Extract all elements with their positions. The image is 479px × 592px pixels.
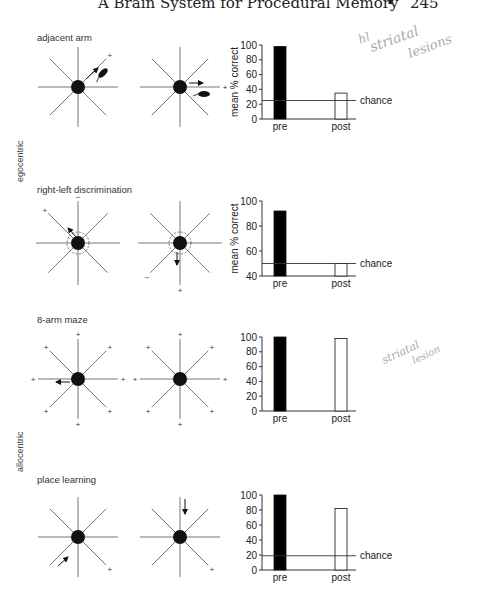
y-tick-label: 40 [246, 535, 258, 546]
reward-plus-icon: + [76, 420, 81, 429]
reward-plus-icon: + [133, 375, 138, 384]
radial-maze: + [38, 497, 118, 577]
figure-canvas: +++–+–++++++++++++++++++ 020406080100pre… [0, 0, 479, 592]
radial-maze: + [140, 497, 220, 577]
radial-maze: + [38, 47, 118, 127]
reward-plus-icon: + [107, 565, 112, 574]
y-tick-label: 100 [240, 332, 257, 343]
reward-plus-icon: + [178, 330, 183, 339]
bar-pre [274, 46, 286, 119]
y-tick-label: 40 [246, 376, 258, 387]
maze-center-platform [173, 372, 187, 386]
x-tick-label: post [332, 572, 351, 583]
reward-plus-icon: + [178, 420, 183, 429]
radial-maze: + [140, 47, 228, 127]
bar-post [335, 93, 347, 119]
bar-post [335, 509, 347, 571]
maze-center-platform [71, 372, 85, 386]
reward-plus-icon: + [107, 343, 112, 352]
x-tick-label: pre [273, 278, 288, 289]
x-tick-label: post [332, 413, 351, 424]
radial-maze: +– [138, 201, 222, 295]
y-tick-label: 0 [251, 565, 257, 576]
y-tick-label: 60 [246, 520, 258, 531]
y-tick-label: 100 [240, 40, 257, 51]
y-tick-label: 80 [246, 221, 258, 232]
maze-center-platform [173, 236, 187, 250]
y-tick-label: 100 [240, 490, 257, 501]
y-axis-label: mean % correct [229, 203, 240, 273]
reward-plus-icon: + [146, 407, 151, 416]
reward-plus-icon: + [44, 407, 49, 416]
reward-plus-icon: + [223, 375, 228, 384]
maze-center-platform [173, 80, 187, 94]
reward-plus-icon: + [107, 407, 112, 416]
handwritten-annotations: hl striatal lesions striatal lesion [356, 22, 454, 366]
y-tick-label: 0 [251, 406, 257, 417]
bar-pre [274, 211, 286, 276]
y-tick-label: 40 [246, 271, 258, 282]
bar-pre [274, 337, 286, 411]
y-tick-label: 40 [246, 84, 258, 95]
bar-chart: 020406080100prepostchancemean % correct [229, 40, 393, 133]
y-axis-label: mean % correct [229, 47, 240, 117]
bar-post [335, 264, 347, 277]
radial-maze: +– [36, 192, 120, 285]
maze-center-platform [173, 530, 187, 544]
x-tick-label: pre [273, 572, 288, 583]
y-tick-label: 80 [246, 346, 258, 357]
chance-label: chance [360, 258, 393, 269]
y-tick-label: 60 [246, 361, 258, 372]
path-arrow-icon [86, 68, 98, 79]
y-tick-label: 80 [246, 54, 258, 65]
y-tick-label: 60 [246, 246, 258, 257]
x-tick-label: pre [273, 121, 288, 132]
radial-maze: ++++++++ [31, 330, 126, 429]
y-tick-label: 80 [246, 505, 258, 516]
no-reward-minus-icon: – [145, 272, 150, 281]
chance-label: chance [360, 95, 393, 106]
radial-mazes: +++–+–++++++++++++++++++ [31, 47, 228, 577]
y-tick-label: 100 [240, 196, 257, 207]
bar-pre [274, 495, 286, 570]
reward-plus-icon: + [44, 343, 49, 352]
no-reward-minus-icon: – [76, 192, 81, 201]
maze-center-platform [71, 530, 85, 544]
maze-center-platform [71, 236, 85, 250]
reward-plus-icon: + [42, 206, 47, 215]
reward-plus-icon: + [223, 83, 228, 92]
path-arrow-icon [58, 557, 68, 566]
reward-plus-icon: + [107, 51, 112, 60]
path-arrow-icon [68, 228, 77, 238]
y-tick-label: 60 [246, 69, 258, 80]
bar-chart: 020406080100prepostchance [240, 490, 392, 584]
chance-label: chance [360, 550, 393, 561]
rat-icon [193, 91, 210, 97]
y-tick-label: 20 [246, 550, 258, 561]
reward-plus-icon: + [209, 407, 214, 416]
y-tick-label: 20 [246, 99, 258, 110]
y-tick-label: 20 [246, 391, 258, 402]
reward-plus-icon: + [121, 375, 126, 384]
bar-chart: 020406080100prepost [240, 332, 356, 425]
x-tick-label: post [332, 121, 351, 132]
radial-maze: ++++++++ [133, 330, 228, 429]
reward-plus-icon: + [31, 375, 36, 384]
x-tick-label: post [332, 278, 351, 289]
reward-plus-icon: + [209, 565, 214, 574]
reward-plus-icon: + [178, 286, 183, 295]
reward-plus-icon: + [76, 330, 81, 339]
y-tick-label: 0 [251, 114, 257, 125]
reward-plus-icon: + [146, 343, 151, 352]
maze-center-platform [71, 80, 85, 94]
bar-post [335, 338, 347, 411]
bar-charts: 020406080100prepostchancemean % correct4… [229, 40, 393, 584]
reward-plus-icon: + [209, 343, 214, 352]
x-tick-label: pre [273, 413, 288, 424]
bar-chart: 406080100prepostchancemean % correct [229, 196, 393, 290]
